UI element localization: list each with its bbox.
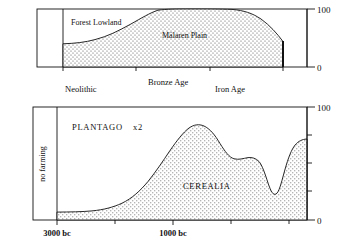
no-farming-label: no farming [38, 146, 47, 181]
era-label-iron-age: Iron Age [215, 84, 245, 94]
upper-axis-label-0: 0 [317, 63, 322, 73]
lower-axis-label-0: 0 [317, 216, 322, 226]
lower-axis-label-100: 100 [317, 103, 331, 113]
plantago-multiplier-label: x2 [133, 122, 143, 132]
lower-xlabel-1000bc: 1000 bc [159, 228, 187, 238]
forest-lowland-label: Forest Lowland [71, 18, 121, 27]
era-label-neolithic: Neolithic [65, 84, 97, 94]
cerealia-label: CEREALIA [183, 181, 231, 191]
plantago-label: PLANTAGO [72, 122, 123, 132]
era-label-bronze-age: Bronze Age [148, 77, 189, 87]
malaren-plain-label: Mälaren Plain [162, 31, 207, 40]
lower-xlabel-3000bc: 3000 bc [43, 228, 71, 238]
upper-axis-label-100: 100 [317, 5, 331, 15]
pollen-diagram-figure: 100 0 Forest Lowland Mälaren Plain Neoli… [0, 0, 338, 248]
